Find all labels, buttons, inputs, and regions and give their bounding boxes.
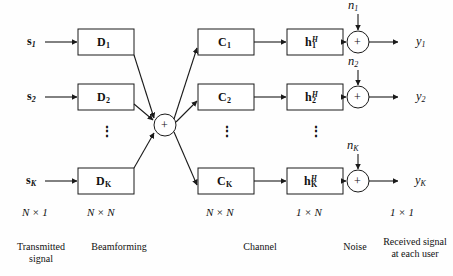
dim-channel-c: N × N: [206, 207, 234, 218]
caption-received-signal: Received signal at each user: [378, 236, 452, 259]
label-d-1: D1: [97, 36, 110, 50]
dim-channel-h: 1 × N: [296, 207, 322, 218]
label-s-K: sK: [26, 174, 36, 188]
label-h-2: hH2: [305, 91, 316, 105]
arrow-d1-to-sum: [134, 55, 154, 118]
summing-junction-plus: +: [161, 119, 168, 131]
adder-K-plus: +: [354, 175, 361, 187]
dim-beamformer: N × N: [87, 207, 115, 218]
caption-transmitted-signal-line2: signal: [5, 253, 77, 265]
dim-input: N × 1: [22, 207, 48, 218]
caption-channel: Channel: [230, 241, 290, 253]
caption-noise-line1: Noise: [334, 241, 376, 253]
adder-2-plus: +: [354, 91, 361, 103]
label-y-2: y2: [416, 90, 426, 104]
caption-received-signal-line1: Received signal: [378, 236, 452, 248]
arrow-sum-to-cK: [174, 132, 197, 185]
caption-transmitted-signal: Transmitted signal: [5, 241, 77, 264]
caption-beamforming: Beamforming: [80, 241, 158, 253]
label-h-K: hHK: [304, 175, 317, 189]
caption-channel-line1: Channel: [230, 241, 290, 253]
caption-received-signal-line2: at each user: [378, 248, 452, 260]
dim-output: 1 × 1: [390, 207, 414, 218]
vdots-channel-c: ⋮: [220, 128, 232, 137]
label-d-K: DK: [96, 175, 111, 189]
caption-beamforming-line1: Beamforming: [80, 241, 158, 253]
vdots-channel-h: ⋮: [309, 128, 321, 137]
label-h-1: hH1: [305, 36, 316, 50]
label-s-1: s1: [27, 35, 36, 49]
label-c-1: C1: [218, 36, 231, 50]
label-c-K: CK: [217, 175, 232, 189]
label-d-2: D2: [97, 91, 110, 105]
label-y-K: yK: [415, 174, 426, 188]
label-y-1: y1: [416, 35, 426, 49]
label-n-2: n2: [348, 55, 358, 69]
label-s-2: s2: [27, 90, 36, 104]
label-n-1: n1: [348, 0, 358, 13]
caption-noise: Noise: [334, 241, 376, 253]
caption-transmitted-signal-line1: Transmitted: [5, 241, 77, 253]
block-diagram-figure: + + + + s1 s2 sK D1 D2 DK C1 C2 CK hH1 h…: [0, 0, 453, 276]
label-c-2: C2: [218, 91, 231, 105]
adder-1-plus: +: [354, 36, 361, 48]
vdots-beamforming: ⋮: [100, 128, 112, 137]
label-n-K: nK: [347, 139, 359, 153]
arrow-sum-to-c1: [174, 48, 197, 119]
arrow-dK-to-sum: [134, 133, 154, 168]
